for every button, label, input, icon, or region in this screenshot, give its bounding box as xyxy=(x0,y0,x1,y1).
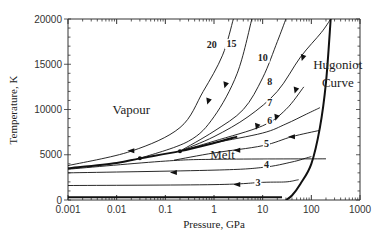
y-tick-label: 15000 xyxy=(34,59,62,70)
curve-label-3: 3 xyxy=(255,177,260,188)
x-tick-label: 0.01 xyxy=(107,204,127,215)
direction-arrow-icon xyxy=(274,114,280,121)
curve-label-7: 7 xyxy=(267,97,272,108)
direction-arrow-icon xyxy=(233,182,240,187)
direction-arrow-icon xyxy=(288,134,295,139)
curve-label-15: 15 xyxy=(227,38,237,49)
x-tick-label: 0.1 xyxy=(158,204,172,215)
x-tick-label: 0.001 xyxy=(55,204,80,215)
curve-label-10: 10 xyxy=(258,52,268,63)
direction-arrow-icon xyxy=(223,81,229,88)
annotation-curve: Curve xyxy=(322,75,354,90)
annotation-hugoniot: Hugoniot xyxy=(313,57,363,72)
annotation-melt: Melt xyxy=(210,147,235,162)
curve-hugoniot-curve xyxy=(286,19,331,200)
curve-label-4: 4 xyxy=(264,159,269,170)
curves xyxy=(68,19,331,200)
curve-label-5: 5 xyxy=(264,138,269,149)
y-axis-title: Temperature, K xyxy=(7,76,19,145)
x-axis-title: Pressure, GPa xyxy=(183,218,245,230)
labels: VapourMeltHugoniotCurve345678101520 xyxy=(113,38,363,187)
x-tick-label: 1000 xyxy=(349,204,372,215)
direction-arrow-icon xyxy=(206,97,212,104)
direction-arrow-icon xyxy=(301,54,307,61)
y-tick-label: 20000 xyxy=(34,14,62,25)
curve-label-8: 8 xyxy=(267,76,272,87)
curve-7 xyxy=(180,87,304,151)
curve-3 xyxy=(68,180,299,186)
critical-point-dot xyxy=(138,156,142,160)
y-tick-label: 5000 xyxy=(40,149,63,160)
critical-point-dot xyxy=(178,149,182,153)
y-tick-label: 0 xyxy=(56,195,62,206)
curve-label-6: 6 xyxy=(267,115,272,126)
x-tick-label: 100 xyxy=(303,204,320,215)
annotation-vapour: Vapour xyxy=(113,102,151,117)
direction-arrow-icon xyxy=(294,87,300,94)
curve-label-20: 20 xyxy=(207,39,217,50)
y-tick-label: 10000 xyxy=(34,104,62,115)
x-tick-label: 10 xyxy=(257,204,269,215)
curve-5 xyxy=(174,130,320,160)
phase-diagram-chart: 0.0010.010.11101001000050001000015000200… xyxy=(0,0,381,240)
x-tick-label: 1 xyxy=(211,204,217,215)
